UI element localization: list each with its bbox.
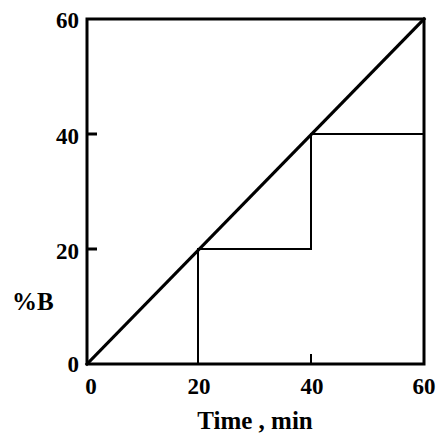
series-linear-gradient bbox=[87, 19, 424, 364]
x-tick-label-20: 20 bbox=[188, 374, 211, 399]
chart-page: 60 40 20 0 0 20 40 60 %B Time , min bbox=[0, 0, 445, 440]
x-tick-label-60: 60 bbox=[413, 374, 436, 399]
x-tick-label-0: 0 bbox=[85, 374, 97, 399]
y-axis-title: %B bbox=[12, 288, 54, 315]
linear-gradient-line bbox=[87, 19, 424, 364]
x-axis-title: Time , min bbox=[197, 407, 313, 434]
y-tick-label-40: 40 bbox=[56, 124, 79, 149]
x-tick-label-40: 40 bbox=[301, 374, 324, 399]
step-gradient-line bbox=[198, 134, 424, 364]
series-step-gradient bbox=[198, 134, 424, 364]
x-tick-labels: 0 20 40 60 bbox=[85, 374, 435, 399]
gradient-profile-chart: 60 40 20 0 0 20 40 60 %B Time , min bbox=[0, 0, 445, 440]
y-tick-label-20: 20 bbox=[56, 239, 79, 264]
y-tick-label-60: 60 bbox=[56, 8, 79, 33]
y-tick-labels: 60 40 20 0 bbox=[56, 8, 79, 377]
y-tick-label-0: 0 bbox=[68, 352, 80, 377]
